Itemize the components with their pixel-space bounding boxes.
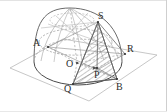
point-Q xyxy=(72,83,74,85)
scan-edge-bottom xyxy=(0,111,167,112)
geometry-figure: A S R O P Q B xyxy=(0,0,167,112)
scan-edge-top xyxy=(0,0,167,1)
point-label-Q: Q xyxy=(64,84,71,94)
scan-edge-right xyxy=(166,0,167,112)
geometry-diagram-canvas xyxy=(0,0,167,112)
point-B xyxy=(116,78,118,80)
point-label-P: P xyxy=(94,70,100,80)
point-label-O: O xyxy=(66,59,73,69)
point-label-S: S xyxy=(98,11,104,21)
point-label-B: B xyxy=(116,82,123,92)
point-A xyxy=(47,46,49,48)
point-R xyxy=(124,53,126,55)
point-label-R: R xyxy=(127,44,134,54)
point-O xyxy=(76,62,78,64)
point-label-A: A xyxy=(33,38,40,48)
point-S xyxy=(97,21,99,23)
